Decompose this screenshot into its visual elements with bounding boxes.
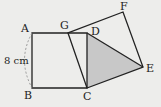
label-e: E	[146, 62, 154, 75]
label-d: D	[91, 25, 100, 38]
label-f: F	[120, 0, 128, 13]
geometry-diagram: A B C D E F G 8 cm	[0, 0, 161, 107]
label-side-length: 8 cm	[4, 55, 29, 66]
label-b: B	[24, 89, 32, 102]
square-abcd	[32, 33, 87, 88]
label-g: G	[60, 19, 69, 32]
label-a: A	[20, 22, 30, 35]
label-c: C	[83, 90, 91, 103]
shaded-triangle-dce	[87, 33, 143, 88]
